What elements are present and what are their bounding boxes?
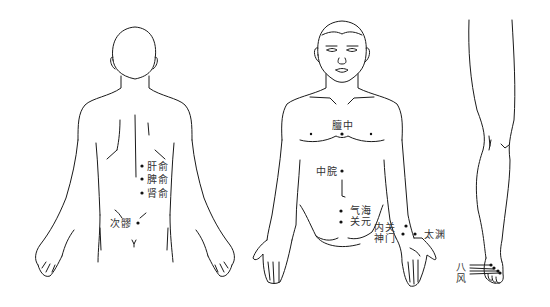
acupoint-dot-shenmen bbox=[401, 232, 404, 235]
acupoint-dot-zhongwan bbox=[340, 169, 343, 172]
nipple-right bbox=[370, 133, 372, 135]
front-figure bbox=[253, 21, 436, 286]
label-danzhong: 膻中 bbox=[332, 120, 353, 131]
label-shenshu: 肾俞 bbox=[147, 188, 168, 199]
acupoint-dot-pishu bbox=[140, 177, 143, 180]
label-ganshu: 肝俞 bbox=[147, 161, 168, 172]
label-ciliao: 次髎 bbox=[110, 218, 131, 229]
label-neiguan: 内关 bbox=[374, 222, 395, 233]
label-zhongwan: 中脘 bbox=[316, 166, 337, 177]
acupoint-dot-guanyuan bbox=[339, 220, 342, 223]
acupoint-dot-qihai bbox=[339, 209, 342, 212]
leg-figure bbox=[469, 20, 515, 283]
acupoint-dot-ciliao bbox=[136, 221, 139, 224]
acupoint-dot-bafeng-1 bbox=[489, 263, 492, 266]
label-bafeng: 八风 bbox=[456, 262, 467, 284]
label-pishu: 脾俞 bbox=[147, 174, 168, 185]
acupoint-dot-bafeng-4 bbox=[498, 271, 501, 274]
label-shenmen: 神门 bbox=[374, 233, 395, 244]
bafeng-leader-lines bbox=[470, 265, 500, 274]
label-guanyuan: 关元 bbox=[350, 216, 371, 227]
acupoint-diagram bbox=[0, 0, 550, 307]
nipple-left bbox=[310, 133, 312, 135]
acupoint-dots bbox=[136, 132, 501, 274]
acupoint-dot-bafeng-2 bbox=[492, 266, 495, 269]
acupoint-dot-danzhong bbox=[340, 132, 343, 135]
label-qihai: 气海 bbox=[350, 205, 371, 216]
acupoint-dot-shenshu bbox=[140, 191, 143, 194]
acupoint-dot-ganshu bbox=[140, 164, 143, 167]
acupoint-dot-taiyuan bbox=[413, 232, 416, 235]
label-taiyuan: 太渊 bbox=[424, 229, 445, 240]
acupoint-dot-neiguan bbox=[404, 224, 407, 227]
back-figure bbox=[36, 27, 235, 276]
